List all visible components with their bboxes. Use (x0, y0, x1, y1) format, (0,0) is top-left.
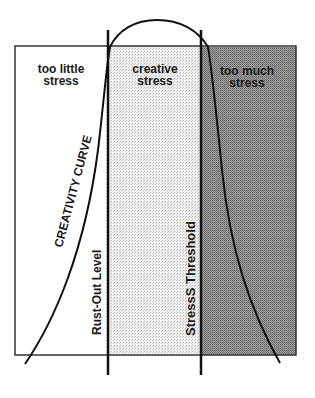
creativity-stress-diagram: too little stress creative stress too mu… (0, 0, 315, 398)
rust-out-level-label: Rust-Out Level (90, 250, 104, 335)
zone-label-creative-2: stress (137, 74, 173, 88)
zone-too-much-stress (201, 47, 296, 355)
zone-label-too-much-2: stress (229, 76, 265, 90)
stress-threshold-label: StressS Threshold (183, 221, 198, 336)
zone-label-too-little-2: stress (43, 74, 79, 88)
